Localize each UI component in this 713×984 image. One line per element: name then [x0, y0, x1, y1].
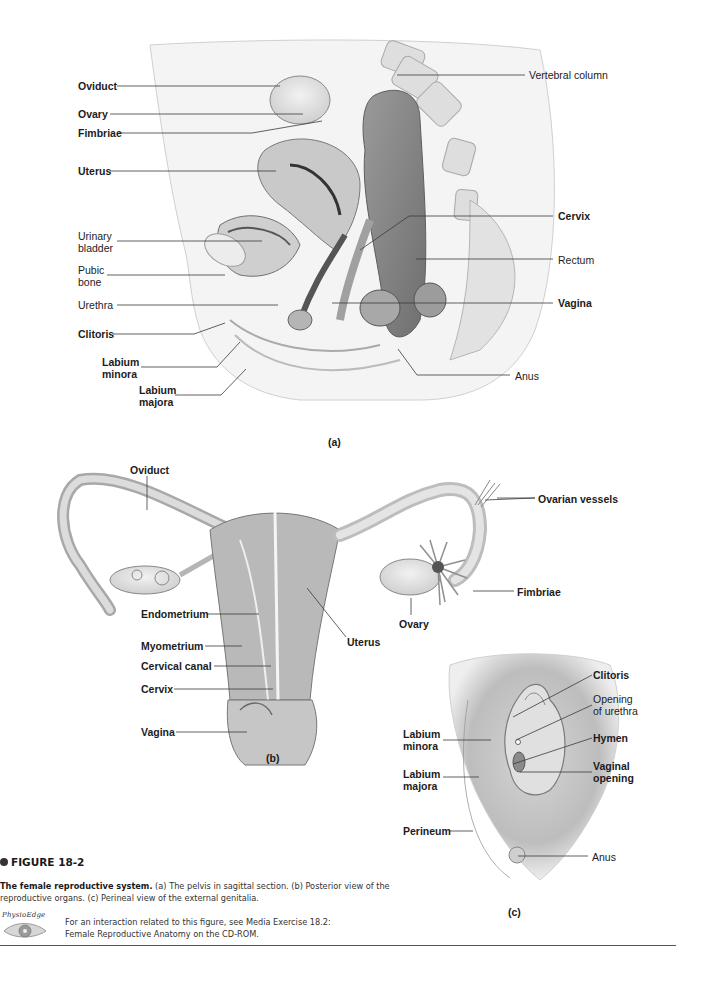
bullet-icon [0, 858, 8, 866]
label-a-labium-minora-1: Labium [102, 356, 139, 368]
panel-label-c: (c) [508, 906, 521, 918]
eye-disc-icon [0, 911, 52, 941]
label-b-oviduct: Oviduct [130, 464, 169, 476]
label-b-myometrium: Myometrium [141, 640, 203, 652]
label-c-vaginal-opening-1: Vaginal [593, 760, 630, 772]
label-a-labium-minora-2: minora [102, 368, 137, 380]
physioedge-logo: PhysioEdge [0, 911, 52, 941]
label-a-vertebral-column: Vertebral column [529, 69, 608, 81]
label-b-fimbriae: Fimbriae [517, 586, 561, 598]
panel-label-b: (b) [266, 752, 279, 764]
label-b-uterus: Uterus [347, 636, 380, 648]
label-c-hymen: Hymen [593, 732, 628, 744]
label-a-uterus: Uterus [78, 165, 111, 177]
label-c-labium-majora-2: majora [403, 780, 437, 792]
label-b-ovarian-vessels: Ovarian vessels [538, 493, 618, 505]
figure-number: FIGURE 18-2 [0, 856, 84, 868]
panel-label-a: (a) [328, 436, 341, 448]
label-b-ovary: Ovary [399, 618, 429, 630]
label-a-clitoris: Clitoris [78, 328, 114, 340]
label-b-endometrium: Endometrium [141, 608, 209, 620]
figure-page: Oviduct Ovary Fimbriae Uterus Urinary bl… [0, 0, 713, 984]
label-a-labium-majora-1: Labium [139, 384, 176, 396]
label-b-cervix: Cervix [141, 683, 173, 695]
label-c-labium-minora-1: Labium [403, 728, 440, 740]
label-a-rectum: Rectum [558, 254, 594, 266]
figure-caption: The female reproductive system. (a) The … [0, 880, 400, 904]
label-a-ovary: Ovary [78, 108, 108, 120]
label-a-labium-majora-2: majora [139, 396, 173, 408]
bottom-divider [0, 945, 676, 946]
label-c-labium-minora-2: minora [403, 740, 438, 752]
label-c-perineum: Perineum [403, 825, 451, 837]
media-exercise-note: For an interaction related to this figur… [65, 916, 365, 940]
label-a-anus: Anus [515, 370, 539, 382]
posterior-organs-drawing [63, 479, 500, 765]
label-a-fimbriae: Fimbriae [78, 127, 122, 139]
label-b-vagina: Vagina [141, 726, 175, 738]
anatomy-illustrations [0, 0, 713, 984]
label-c-vaginal-opening-2: opening [593, 772, 634, 784]
label-c-opening-urethra-2: of urethra [593, 705, 638, 717]
label-a-urethra: Urethra [78, 299, 113, 311]
label-c-opening-urethra-1: Opening [593, 693, 633, 705]
media-line-1: For an interaction related to this figur… [65, 916, 365, 928]
label-a-cervix: Cervix [558, 210, 590, 222]
label-a-pubic-bone-2: bone [78, 276, 101, 288]
label-a-vagina: Vagina [558, 297, 592, 309]
label-c-clitoris: Clitoris [593, 669, 629, 681]
media-line-2: Female Reproductive Anatomy on the CD-RO… [65, 928, 365, 940]
figure-number-text: FIGURE 18-2 [11, 856, 84, 868]
label-a-oviduct: Oviduct [78, 80, 117, 92]
label-a-urinary-bladder-2: bladder [78, 242, 113, 254]
sagittal-section-drawing [150, 39, 554, 400]
label-a-pubic-bone-1: Pubic [78, 264, 104, 276]
label-c-labium-majora-1: Labium [403, 768, 440, 780]
label-c-anus: Anus [592, 851, 616, 863]
label-a-urinary-bladder-1: Urinary [78, 230, 112, 242]
label-b-cervical-canal: Cervical canal [141, 660, 212, 672]
caption-lead: The female reproductive system. [0, 881, 153, 891]
